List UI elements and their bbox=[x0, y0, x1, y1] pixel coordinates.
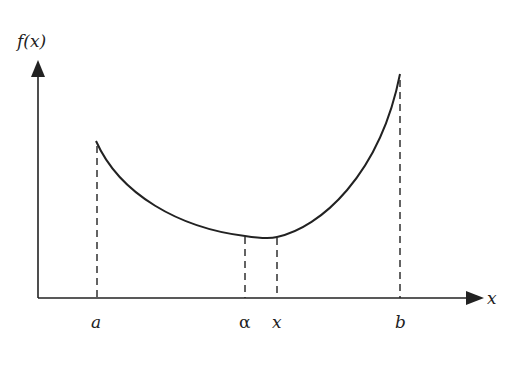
tick-label-x: x bbox=[272, 312, 282, 332]
y-axis-label: f(x) bbox=[15, 31, 46, 51]
function-curve bbox=[96, 74, 400, 238]
tick-label-b: b bbox=[395, 312, 406, 332]
y-axis-arrow-icon bbox=[31, 60, 45, 77]
tick-label-alpha: α bbox=[239, 312, 251, 332]
x-axis-arrow-icon bbox=[466, 291, 484, 305]
x-axis-label: x bbox=[487, 288, 497, 308]
tick-label-a: a bbox=[91, 312, 101, 332]
diagram-canvas: f(x) x a α x b bbox=[0, 0, 505, 365]
